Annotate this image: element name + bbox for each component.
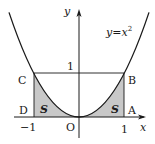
point-label-a: A [127,104,137,117]
point-label-d: D [19,104,28,117]
tick-label-y-1: 1 [67,60,74,73]
region-label-s-right: S [111,103,119,116]
curve-equation-label: y=x2 [105,25,132,39]
point-label-c: C [18,74,26,87]
x-axis-label: x [140,121,147,134]
eq-equals: = [112,26,121,39]
tick-label-x-1: 1 [121,123,128,136]
eq-exponent: 2 [128,25,132,33]
tick-label-x-neg1: −1 [20,121,36,134]
point-label-b: B [128,74,136,87]
y-axis-label: y [63,5,71,18]
origin-label: O [66,121,75,134]
parabola-diagram: y x O 1 −1 1 C B D A S S y=x2 [0,0,155,144]
region-label-s-left: S [40,103,48,116]
